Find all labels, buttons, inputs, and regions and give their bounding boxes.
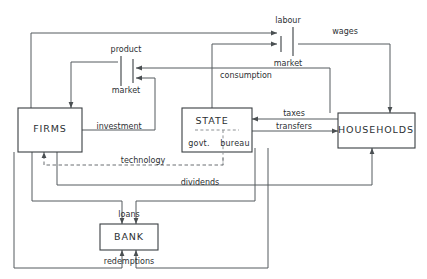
label-labour-market-top: labour (275, 16, 301, 25)
label-product-market-top: product (111, 45, 142, 54)
label-labour-market-bottom: market (274, 59, 302, 68)
edge-loans-firms (32, 152, 122, 224)
label-redemptions: redemptions (104, 257, 154, 266)
label-investment: investment (96, 122, 141, 131)
label-state: STATE (195, 115, 228, 126)
label-bank: BANK (114, 231, 144, 242)
label-wages: wages (332, 27, 358, 36)
label-consumption: consumption (220, 71, 272, 80)
label-households: HOUSEHOLDS (338, 124, 414, 135)
edge-redemptions-firms (14, 152, 122, 268)
label-transfers: transfers (276, 122, 312, 131)
diagram-canvas: FIRMS STATE HOUSEHOLDS BANK govt. bureau… (0, 0, 427, 279)
label-firms: FIRMS (33, 123, 67, 134)
label-state-bureau: bureau (220, 139, 249, 148)
edge-wages (298, 44, 390, 113)
label-technology: technology (121, 156, 166, 165)
label-product-market-bottom: market (112, 86, 140, 95)
label-state-govt: govt. (188, 139, 209, 148)
label-dividends: dividends (181, 178, 220, 187)
label-loans: loans (118, 210, 139, 219)
circular-flow-diagram: FIRMS STATE HOUSEHOLDS BANK govt. bureau… (0, 0, 427, 279)
label-taxes: taxes (283, 109, 305, 118)
